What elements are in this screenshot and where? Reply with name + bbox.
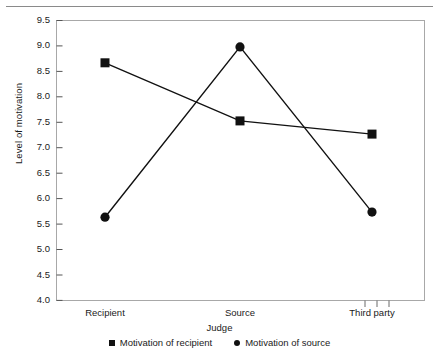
chart-legend: Motivation of recipient Motivation of so… xyxy=(0,337,439,348)
data-point-source-square xyxy=(236,116,245,125)
y-tick-label: 6.5 xyxy=(16,168,50,178)
y-tick-label: 7.0 xyxy=(16,142,50,152)
square-marker-icon xyxy=(109,340,115,346)
x-axis-title: Judge xyxy=(0,322,439,333)
y-tick-label: 9.5 xyxy=(16,15,50,25)
circle-marker-icon xyxy=(234,340,240,346)
y-tick-label: 4.5 xyxy=(16,270,50,280)
y-tick-label: 7.5 xyxy=(16,117,50,127)
figure-container: Level of motivation 9.5 9.0 8.5 8.0 7.5 … xyxy=(0,0,439,359)
plot-frame xyxy=(57,21,425,301)
legend-item-motivation-of-recipient: Motivation of recipient xyxy=(109,337,212,348)
data-point-thirdparty-square xyxy=(368,130,377,139)
x-tick-label-recipient: Recipient xyxy=(65,307,145,318)
legend-label: Motivation of source xyxy=(245,337,330,348)
y-tick-label: 9.0 xyxy=(16,40,50,50)
y-tick-label: 8.5 xyxy=(16,66,50,76)
x-tick-label-third-party: Third party xyxy=(332,307,412,318)
y-tick-label: 8.0 xyxy=(16,91,50,101)
legend-label: Motivation of recipient xyxy=(120,337,212,348)
y-tick-label: 6.0 xyxy=(16,193,50,203)
y-tick-label: 5.5 xyxy=(16,219,50,229)
legend-item-motivation-of-source: Motivation of source xyxy=(234,337,330,348)
y-tick-label: 5.0 xyxy=(16,244,50,254)
data-point-recipient-square xyxy=(101,58,110,67)
data-point-source-circle xyxy=(235,42,244,51)
x-tick-label-source: Source xyxy=(200,307,280,318)
data-point-thirdparty-circle xyxy=(367,208,376,217)
chart-plot-area xyxy=(0,0,439,359)
data-point-recipient-circle xyxy=(100,213,109,222)
y-tick-label: 4.0 xyxy=(16,295,50,305)
